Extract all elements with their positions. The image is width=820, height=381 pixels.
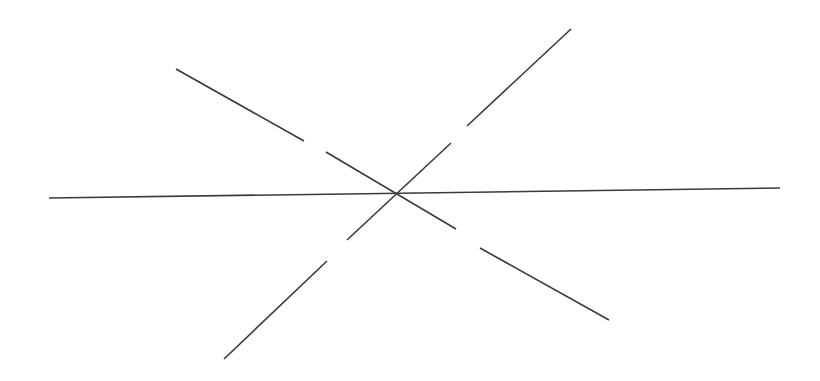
horizontal-line: [49, 188, 780, 198]
rising-diagonal-line-segment-1: [467, 29, 571, 126]
horizontal-line-segment-1: [49, 188, 780, 198]
rising-diagonal-line-segment-2: [347, 143, 451, 240]
falling-diagonal-line: [176, 69, 609, 320]
line-diagram: [0, 0, 820, 381]
diagram-canvas: [0, 0, 820, 381]
falling-diagonal-line-segment-2: [326, 152, 456, 229]
falling-diagonal-line-segment-1: [176, 69, 304, 141]
rising-diagonal-line-segment-3: [224, 261, 327, 359]
falling-diagonal-line-segment-3: [480, 248, 609, 320]
